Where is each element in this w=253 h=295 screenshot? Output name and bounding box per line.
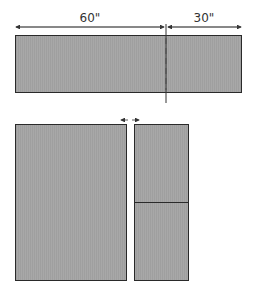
- top-board: [16, 36, 242, 93]
- label-60: 60": [80, 11, 101, 25]
- bottom-left-panel: [16, 125, 127, 281]
- dimension-60: 60": [16, 11, 164, 27]
- dimension-30: 30": [168, 11, 241, 27]
- cutting-diagram: 60" 30": [0, 0, 253, 295]
- label-30: 30": [194, 11, 215, 25]
